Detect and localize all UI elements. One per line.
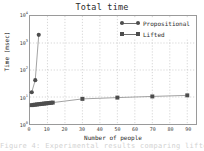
x-tick-label: 40 [97,126,103,132]
legend-entry[interactable]: Lifted [120,30,190,38]
x-axis-title: Number of people [29,134,197,141]
series-line-1 [32,95,188,105]
x-tick-label: 30 [79,126,85,132]
data-point-marker [37,33,41,37]
x-tick-label: 20 [61,126,67,132]
data-point-marker [30,90,34,94]
legend-marker-square-icon [120,30,140,38]
caption-bleed-text: Figure 4: Experimental results comparing… [0,142,204,150]
y-axis-title: Time (msec) [3,22,10,82]
data-point-marker [51,101,55,105]
data-point-marker [80,97,84,101]
y-tick-label: 101 [2,95,28,101]
y-tick-label: 104 [2,12,28,18]
data-point-marker [185,93,189,97]
y-tick-label: 100 [2,122,28,128]
data-point-marker [115,96,119,100]
chart-title: Total time [0,2,204,12]
chart-figure: Total time 100101102103104 Time (msec) 0… [0,0,204,151]
series-line-0 [32,35,39,92]
legend-label: Lifted [143,31,165,38]
x-tick-label: 50 [114,126,120,132]
x-tick-label: 70 [150,126,156,132]
x-tick-label: 10 [44,126,50,132]
legend-label: Propositional [143,20,190,27]
x-tick-label: 80 [167,126,173,132]
x-tick-label: 60 [132,126,138,132]
legend-marker-circle-icon [120,19,140,27]
x-tick-label: 0 [27,126,30,132]
legend-entry[interactable]: Propositional [120,19,190,27]
data-point-marker [33,78,37,82]
chart-legend: PropositionalLifted [118,18,192,39]
x-tick-label: 90 [185,126,191,132]
data-point-marker [150,94,154,98]
